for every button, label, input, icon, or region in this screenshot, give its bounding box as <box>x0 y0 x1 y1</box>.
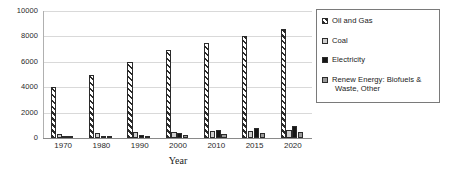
y-axis-tick-label: 2000 <box>0 109 38 117</box>
legend-item: Renew Energy: Biofuels &Waste, Other <box>322 75 435 94</box>
bar <box>248 131 253 138</box>
bar <box>292 126 297 138</box>
bar-group <box>204 11 227 138</box>
bar <box>210 131 215 138</box>
y-axis-tick-label: 0 <box>0 134 38 142</box>
legend-label: Coal <box>332 36 348 46</box>
chart-figure: 0200040006000800010000 19701980199020002… <box>0 0 462 179</box>
bar-group <box>127 11 150 138</box>
y-axis-tick-label: 10000 <box>0 7 38 15</box>
plot-area <box>44 11 312 138</box>
bar <box>260 133 265 138</box>
y-axis-tick-label: 8000 <box>0 32 38 40</box>
bar <box>221 134 226 138</box>
x-axis-tick-label: 2020 <box>271 141 315 151</box>
bar <box>68 136 73 138</box>
bar <box>62 136 67 138</box>
bar <box>127 62 132 138</box>
chart-legend: Oil and GasCoalElectricityRenew Energy: … <box>316 9 440 103</box>
bar <box>298 132 303 138</box>
bar <box>183 135 188 138</box>
bar <box>95 133 100 138</box>
legend-swatch-icon <box>322 38 328 44</box>
legend-item: Electricity <box>322 55 435 65</box>
legend-label: Electricity <box>332 55 365 65</box>
bar <box>242 36 247 138</box>
bar <box>216 130 221 138</box>
bar <box>171 132 176 138</box>
bar <box>89 75 94 139</box>
bar <box>177 133 182 138</box>
legend-item: Oil and Gas <box>322 16 435 26</box>
bar <box>145 136 150 138</box>
bar <box>101 136 106 138</box>
legend-swatch-icon <box>322 77 328 83</box>
legend-swatch-icon <box>322 18 328 24</box>
bar-group <box>89 11 112 138</box>
bar-group <box>281 11 304 138</box>
bar-group <box>242 11 265 138</box>
x-axis-title: Year <box>44 155 312 166</box>
bar <box>281 29 286 138</box>
bar <box>51 87 56 138</box>
bar <box>133 132 138 138</box>
bar <box>166 50 171 138</box>
bar <box>139 135 144 138</box>
y-axis-tick-label: 4000 <box>0 83 38 91</box>
legend-item: Coal <box>322 36 435 46</box>
legend-label: Oil and Gas <box>332 16 373 26</box>
legend-swatch-icon <box>322 57 328 63</box>
bar-group <box>166 11 189 138</box>
legend-label-line2: Waste, Other <box>332 84 421 94</box>
legend-label: Renew Energy: Biofuels &Waste, Other <box>332 75 421 94</box>
x-axis-line <box>43 138 312 139</box>
bar <box>204 43 209 138</box>
bar <box>254 128 259 138</box>
bar-group <box>51 11 74 138</box>
bar <box>107 136 112 138</box>
bar <box>286 130 291 138</box>
y-axis-tick-label: 6000 <box>0 58 38 66</box>
bar <box>57 134 62 138</box>
